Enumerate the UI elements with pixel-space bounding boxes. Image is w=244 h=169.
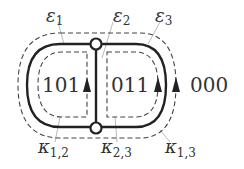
label-kappa-1-3: κ1,3 <box>164 136 196 160</box>
arrow-up-icon <box>83 77 91 92</box>
label-epsilon-3: ε3 <box>155 5 172 28</box>
face-label-000: 000 <box>190 73 228 97</box>
arrow-up-icon <box>154 77 162 92</box>
label-epsilon-2: ε2 <box>113 5 130 28</box>
node-top <box>91 39 102 50</box>
face-label-011: 011 <box>111 73 149 97</box>
label-kappa-2-3: κ2,3 <box>100 136 132 160</box>
diagram-canvas: 101 011 000 ε1 ε2 ε3 κ1,2 κ2,3 κ1,3 <box>0 0 244 169</box>
label-epsilon-1: ε1 <box>46 5 63 28</box>
node-bottom <box>91 123 102 134</box>
arrow-up-icon <box>172 77 180 92</box>
label-kappa-1-2: κ1,2 <box>37 136 69 160</box>
face-label-101: 101 <box>42 73 80 97</box>
